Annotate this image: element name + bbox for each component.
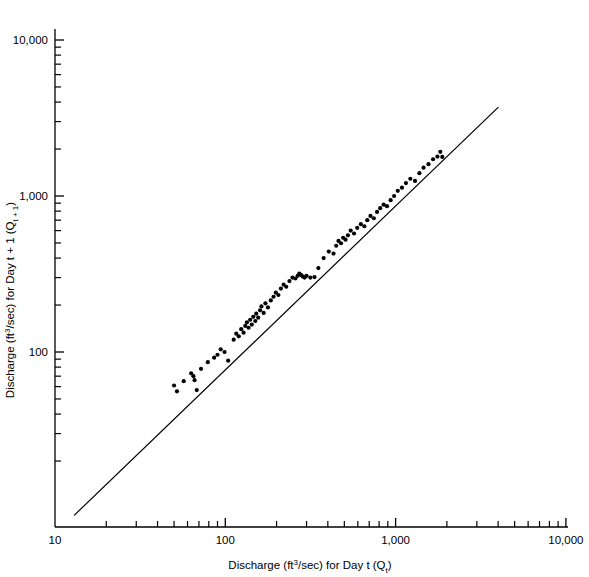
data-point	[308, 275, 312, 279]
data-point	[266, 305, 270, 309]
data-point	[343, 238, 347, 242]
data-point	[355, 226, 359, 230]
data-point	[248, 318, 252, 322]
scatter-plot-figure: 1001,00010,000 101001,00010,000 Discharg…	[0, 0, 589, 577]
data-point	[191, 374, 195, 378]
data-point	[212, 356, 216, 360]
data-point	[182, 379, 186, 383]
data-point	[375, 210, 379, 214]
data-point	[226, 359, 230, 363]
data-point	[408, 177, 412, 181]
data-point	[222, 350, 226, 354]
data-point	[263, 301, 267, 305]
data-point	[287, 279, 291, 283]
data-point	[279, 286, 283, 290]
data-point	[389, 198, 393, 202]
y-axis-tick-label: 1,000	[19, 190, 48, 202]
data-point	[365, 218, 369, 222]
y-axis-tick-label: 100	[29, 346, 48, 358]
data-point	[327, 250, 331, 254]
data-point	[195, 388, 199, 392]
data-point	[346, 233, 350, 237]
data-point	[440, 155, 444, 159]
data-point	[322, 256, 326, 260]
data-point	[352, 231, 356, 235]
data-point	[251, 315, 255, 319]
data-point	[426, 162, 430, 166]
data-point	[339, 241, 343, 245]
data-point	[250, 322, 254, 326]
x-axis-tick-label: 100	[216, 534, 235, 546]
data-point	[253, 319, 257, 323]
data-point	[438, 150, 442, 154]
data-point	[172, 383, 176, 387]
data-point	[206, 360, 210, 364]
data-point	[199, 367, 203, 371]
x-axis-tick-label: 1,000	[381, 534, 410, 546]
data-point	[284, 285, 288, 289]
data-point	[237, 334, 241, 338]
data-point	[435, 154, 439, 158]
data-point	[271, 295, 275, 299]
data-point	[413, 179, 417, 183]
data-point	[417, 171, 421, 175]
data-point	[400, 186, 404, 190]
data-point	[219, 347, 223, 351]
data-point	[404, 181, 408, 185]
data-point	[362, 224, 366, 228]
plot-background	[0, 0, 589, 577]
data-point	[256, 316, 260, 320]
data-point	[331, 251, 335, 255]
data-point	[378, 206, 382, 210]
plot-canvas: 1001,00010,000 101001,00010,000 Discharg…	[0, 0, 589, 577]
data-point	[385, 204, 389, 208]
data-point	[316, 266, 320, 270]
data-point	[276, 293, 280, 297]
data-point	[241, 331, 245, 335]
data-point	[258, 308, 262, 312]
data-point	[269, 298, 273, 302]
data-point	[232, 338, 236, 342]
x-axis-tick-label: 10,000	[548, 534, 583, 546]
data-point	[246, 326, 250, 330]
data-point	[175, 389, 179, 393]
data-point	[392, 194, 396, 198]
data-point	[431, 157, 435, 161]
data-point	[421, 166, 425, 170]
data-point	[334, 244, 338, 248]
data-point	[304, 274, 308, 278]
data-point	[372, 216, 376, 220]
data-point	[349, 229, 353, 233]
x-axis-tick-label: 10	[49, 534, 62, 546]
data-point	[312, 275, 316, 279]
data-point	[259, 304, 263, 308]
data-point	[192, 378, 196, 382]
data-point	[215, 353, 219, 357]
data-point	[262, 311, 266, 315]
data-point	[396, 189, 400, 193]
y-axis-tick-label: 10,000	[13, 34, 48, 46]
data-point	[239, 327, 243, 331]
data-point	[254, 312, 258, 316]
